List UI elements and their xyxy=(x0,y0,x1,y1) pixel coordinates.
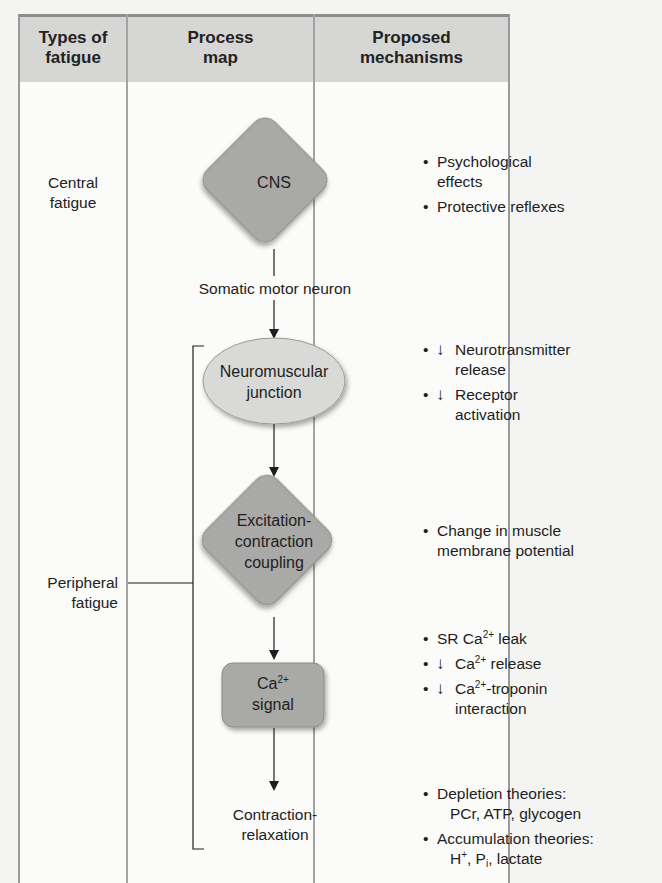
nmj-label: Neuromuscularjunction xyxy=(204,360,344,404)
down-arrow-icon: ↓ xyxy=(436,385,445,405)
mechanism-item: Accumulation theories: H+, Pi, lactate xyxy=(423,829,643,869)
down-arrow-icon: ↓ xyxy=(436,679,445,699)
process-map-graphics xyxy=(0,0,662,883)
ec-coupling-mechanisms: Change in musclemembrane potential xyxy=(423,521,633,566)
peripheral-fatigue-label: Peripheralfatigue xyxy=(28,573,118,613)
mechanism-item: Change in musclemembrane potential xyxy=(423,521,633,561)
ec-coupling-label: Excitation-contractioncoupling xyxy=(214,508,334,574)
central-mechanisms: Psychologicaleffects Protective reflexes xyxy=(423,152,603,222)
nmj-mechanisms: ↓Neurotransmitterrelease ↓Receptoractiva… xyxy=(423,340,613,430)
mechanism-item: ↓Neurotransmitterrelease xyxy=(423,340,613,380)
somatic-motor-neuron-label: Somatic motor neuron xyxy=(160,279,390,299)
down-arrow-icon: ↓ xyxy=(436,340,445,360)
mechanism-item: ↓Ca2+ release xyxy=(423,654,623,674)
mechanism-item: ↓Receptoractivation xyxy=(423,385,613,425)
contraction-relaxation-label: Contraction-relaxation xyxy=(200,805,350,845)
mechanism-item: ↓Ca2+-troponininteraction xyxy=(423,679,623,719)
central-fatigue-label: Centralfatigue xyxy=(20,173,126,213)
cns-label: CNS xyxy=(224,170,324,194)
down-arrow-icon: ↓ xyxy=(436,654,445,674)
ca-signal-label: Ca2+signal xyxy=(222,672,324,716)
metabolic-mechanisms: Depletion theories: PCr, ATP, glycogen A… xyxy=(423,784,643,874)
mechanism-item: Protective reflexes xyxy=(423,197,603,217)
ca-signal-mechanisms: SR Ca2+ leak ↓Ca2+ release ↓Ca2+-troponi… xyxy=(423,629,623,724)
mechanism-item: Psychologicaleffects xyxy=(423,152,603,192)
mechanism-item: SR Ca2+ leak xyxy=(423,629,623,649)
mechanism-item: Depletion theories: PCr, ATP, glycogen xyxy=(423,784,643,824)
